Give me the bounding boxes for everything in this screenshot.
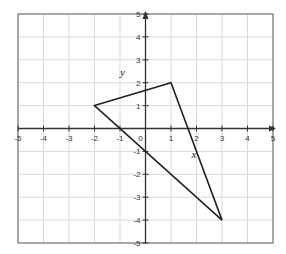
annotations: yx <box>119 66 196 160</box>
y-tick-label: -2 <box>133 170 141 179</box>
x-tick-label: -5 <box>14 134 22 143</box>
y-tick-label: -1 <box>133 147 141 156</box>
x-tick-label: 3 <box>220 134 225 143</box>
y-axis-arrow-icon <box>143 11 149 19</box>
y-tick-label: 2 <box>136 79 141 88</box>
x-tick-label: -2 <box>91 134 99 143</box>
y-tick-label: -5 <box>133 239 141 248</box>
x-tick-label: 0 <box>138 134 143 143</box>
x-tick-label: 5 <box>271 134 276 143</box>
x-tick-label: -1 <box>116 134 124 143</box>
axes <box>18 11 276 243</box>
x-tick-label: -4 <box>40 134 48 143</box>
y-tick-label: -3 <box>133 193 141 202</box>
x-tick-label: 2 <box>194 134 199 143</box>
annotation-y: y <box>119 66 125 78</box>
x-tick-label: 4 <box>245 134 250 143</box>
coordinate-plane: -5-4-3-2-1012345-5-4-3-2-112345 yx <box>0 0 286 254</box>
y-tick-label: 3 <box>136 56 141 65</box>
y-tick-label: 4 <box>136 33 141 42</box>
x-tick-label: 1 <box>169 134 174 143</box>
x-tick-label: -3 <box>65 134 73 143</box>
y-tick-label: -4 <box>133 216 141 225</box>
y-tick-label: 1 <box>136 102 141 111</box>
y-tick-label: 5 <box>136 10 141 19</box>
annotation-x: x <box>191 148 197 160</box>
